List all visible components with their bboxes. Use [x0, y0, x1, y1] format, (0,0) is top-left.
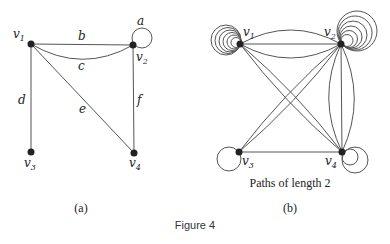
edges-v1-v4 [240, 44, 342, 152]
edges-v2-v4 [329, 44, 355, 152]
graph-b: v1 v2 v3 v4 Paths of length 2 (b) [211, 11, 377, 215]
vertex-v2 [130, 42, 137, 49]
label-edge-b: b [78, 29, 86, 43]
label-v4: v4 [325, 154, 337, 170]
panel-a-label: (a) [74, 201, 87, 215]
panel-b-label: (b) [283, 201, 297, 215]
label-v1: v1 [243, 25, 255, 41]
vertex-v1 [28, 41, 35, 48]
figure-caption: Figure 4 [175, 219, 215, 231]
label-edge-e: e [79, 102, 86, 116]
edge-c [31, 44, 133, 59]
v4-loops [342, 147, 368, 173]
vertex-v4 [339, 149, 346, 156]
graph-a: v1 v2 v3 v4 a b c d e f (a) [13, 14, 152, 215]
edge-f [133, 45, 134, 153]
label-edge-d: d [18, 93, 26, 107]
label-edge-f: f [136, 93, 144, 107]
panel-b-subtitle: Paths of length 2 [250, 176, 331, 190]
label-v2: v2 [324, 25, 336, 41]
vertex-v3 [28, 149, 35, 156]
figure-canvas: v1 v2 v3 v4 a b c d e f (a) [0, 0, 390, 244]
label-edge-c: c [78, 59, 85, 73]
label-edge-a: a [137, 14, 144, 28]
edges-v2-v3 [239, 44, 341, 152]
vertex-v2 [338, 41, 345, 48]
label-v1: v1 [13, 27, 25, 43]
v1-loops [211, 25, 241, 55]
edge-b [31, 44, 133, 45]
label-v3: v3 [242, 154, 254, 170]
label-v4: v4 [129, 156, 141, 172]
label-v3: v3 [24, 156, 36, 172]
label-v2: v2 [136, 50, 148, 66]
vertex-v1 [237, 41, 244, 48]
